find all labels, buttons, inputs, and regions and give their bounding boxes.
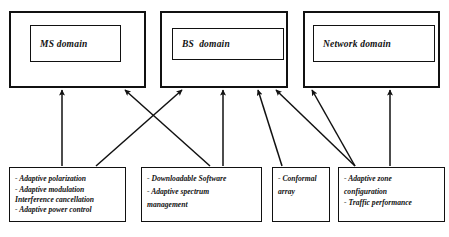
feature-line: configuration — [344, 185, 440, 198]
feature-line: - Traffic performance — [344, 198, 440, 208]
feature-line: - Adaptive modulation — [15, 185, 121, 195]
feature-box-ms-features[interactable]: - Adaptive polarization - Adaptive modul… — [9, 167, 126, 222]
arrow-zone-features-to-network-domain-diagonal — [312, 90, 355, 166]
feature-line: management — [147, 198, 257, 211]
feature-line: array — [278, 185, 325, 198]
feature-box-zone-features[interactable]: - Adaptive zone configuration - Traffic … — [338, 167, 445, 222]
domain-inner-bs: BS domain — [172, 28, 284, 60]
domain-inner-ms: MS domain — [30, 25, 121, 62]
feature-line: - Downloadable Software — [147, 172, 257, 185]
arrow-conformal-features-to-bs-domain — [258, 90, 282, 166]
diagram-canvas: MS domain BS domain Network domain - Ada… — [0, 0, 449, 237]
arrow-software-features-to-ms-domain — [125, 90, 210, 166]
feature-box-software-features[interactable]: - Downloadable Software - Adaptive spect… — [141, 167, 262, 222]
feature-line: - Adaptive spectrum — [147, 185, 257, 198]
feature-line: - Adaptive power control — [15, 205, 121, 215]
domain-label-ms: MS domain — [31, 39, 87, 49]
domain-label-network: Network domain — [314, 39, 391, 49]
feature-line: - Conformal — [278, 172, 325, 185]
domain-inner-network: Network domain — [313, 25, 435, 62]
feature-line: - Adaptive polarization — [15, 172, 121, 185]
arrow-zone-features-to-bs-domain — [276, 90, 355, 166]
feature-line: - Adaptive zone — [344, 172, 440, 185]
feature-box-conformal-features[interactable]: - Conformal array — [272, 167, 330, 222]
arrow-ms-features-to-bs-domain — [96, 90, 182, 166]
domain-label-bs: BS domain — [173, 39, 230, 49]
feature-line: Interference cancellation — [15, 195, 121, 205]
